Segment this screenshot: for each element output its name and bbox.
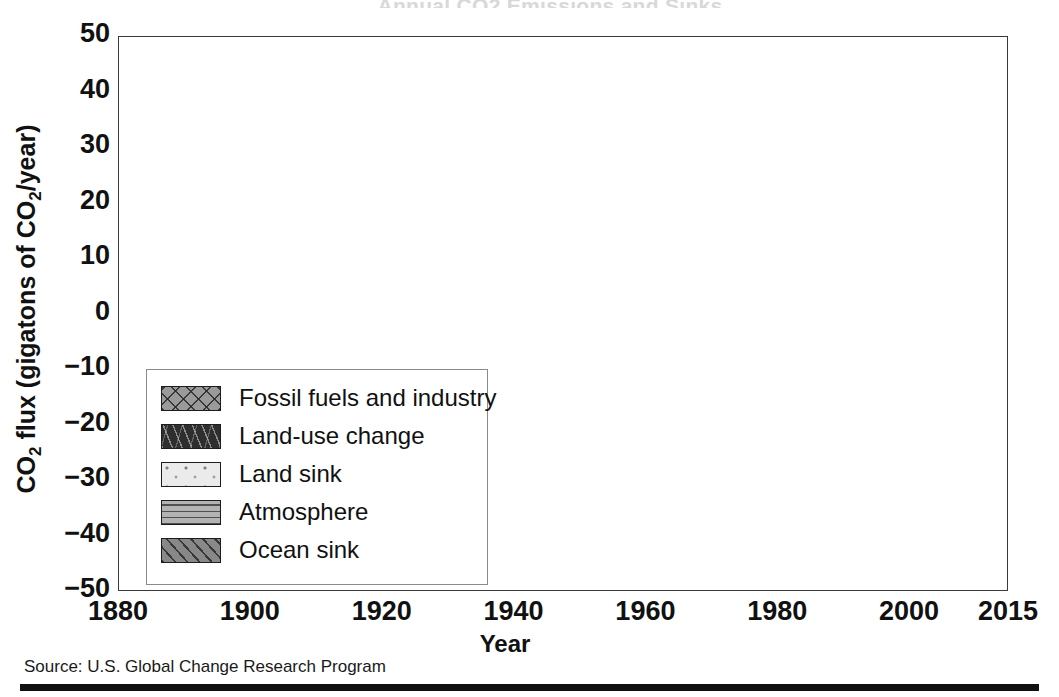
y-axis-title-sub1: 2 [26,447,45,456]
bottom-rule [20,684,1039,691]
legend-label: Atmosphere [239,498,368,526]
legend-item[interactable]: Atmosphere [147,493,487,531]
y-axis-title-pre: CO [12,456,40,494]
legend-swatch-ocean-sink-icon [161,538,221,563]
legend-item[interactable]: Land sink [147,455,487,493]
legend-label: Fossil fuels and industry [239,384,496,412]
x-tick-label: 1940 [454,596,574,627]
x-tick-label: 1960 [585,596,705,627]
chart-legend: Fossil fuels and industry Land-use chang… [146,369,488,585]
legend-label: Land sink [239,460,342,488]
legend-item[interactable]: Fossil fuels and industry [147,379,487,417]
x-axis-title: Year [0,630,1010,658]
legend-swatch-fossil-fuels-icon [161,386,221,411]
y-axis-title: CO2 flux (gigatons of CO2/year) [12,44,46,574]
y-axis-title-post: /year) [12,125,40,192]
legend-swatch-land-sink-icon [161,462,221,487]
x-tick-label: 2015 [948,596,1059,627]
legend-swatch-land-use-change-icon [161,424,221,449]
figure-root: Annual CO2 Emissions and Sinks [0,0,1059,697]
y-axis-title-sub2: 2 [26,191,45,200]
legend-item[interactable]: Land-use change [147,417,487,455]
x-tick-label: 1980 [717,596,837,627]
x-tick-label: 1920 [322,596,442,627]
legend-item[interactable]: Ocean sink [147,531,487,569]
x-tick-label: 1880 [58,596,178,627]
x-tick-label: 1900 [190,596,310,627]
y-axis-title-mid: flux (gigatons of CO [12,201,40,447]
legend-swatch-atmosphere-icon [161,500,221,525]
source-caption: Source: U.S. Global Change Research Prog… [24,657,386,677]
legend-label: Land-use change [239,422,424,450]
legend-label: Ocean sink [239,536,359,564]
